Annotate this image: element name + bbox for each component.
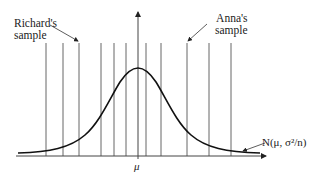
richard-label-line1: Richard's xyxy=(14,17,57,29)
anna-arrow xyxy=(188,24,207,41)
normal-curve xyxy=(18,68,260,153)
richard-sample-label: Richard's sample xyxy=(14,17,57,41)
anna-sample-label: Anna's sample xyxy=(215,12,248,36)
richard-label-line2: sample xyxy=(14,29,57,41)
anna-label-line2: sample xyxy=(215,24,248,36)
mean-label: μ xyxy=(134,160,140,172)
anna-label-line1: Anna's xyxy=(215,12,248,24)
distribution-label: N(μ, σ²/n) xyxy=(262,136,306,148)
